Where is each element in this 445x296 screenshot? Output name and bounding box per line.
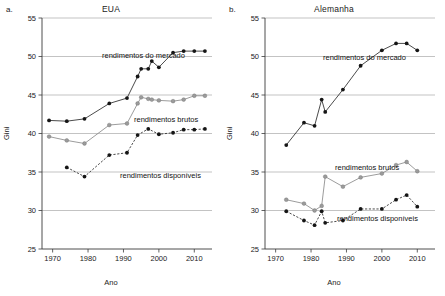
- panel-alemanha: b. Alemanha Gini 25303540455055197019801…: [223, 0, 445, 296]
- y-tick-label: 35: [251, 168, 259, 177]
- figure-gini-comparison: a. EUA Gini 2530354045505519701980199020…: [0, 0, 445, 296]
- data-point: [107, 123, 111, 127]
- data-point: [125, 96, 129, 100]
- data-point: [341, 185, 345, 189]
- data-point: [65, 119, 69, 123]
- data-point: [125, 122, 129, 126]
- y-tick-label: 45: [251, 91, 259, 100]
- x-tick-label: 1990: [338, 254, 355, 263]
- data-point: [171, 131, 175, 135]
- x-tick-label: 2010: [186, 254, 203, 263]
- x-axis-label-a: Ano: [0, 278, 222, 287]
- data-point: [157, 98, 161, 102]
- x-axis-label-b: Ano: [223, 278, 445, 287]
- data-point: [302, 121, 306, 125]
- y-tick-label: 55: [28, 14, 36, 23]
- data-point: [323, 175, 327, 179]
- y-tick-label: 30: [251, 206, 259, 215]
- data-point: [341, 88, 345, 92]
- data-point: [405, 193, 409, 197]
- data-point: [139, 67, 143, 71]
- data-point: [320, 209, 324, 213]
- x-tick-label: 2010: [409, 254, 426, 263]
- data-point: [136, 75, 140, 79]
- data-point: [359, 207, 363, 211]
- series-line: [49, 51, 205, 121]
- series-line: [67, 129, 205, 177]
- data-point: [415, 169, 419, 173]
- data-point: [323, 221, 327, 225]
- data-point: [47, 119, 51, 123]
- data-point: [192, 94, 196, 98]
- data-point: [394, 42, 398, 46]
- data-point: [394, 198, 398, 202]
- data-point: [380, 172, 384, 176]
- x-tick-label: 1980: [80, 254, 97, 263]
- panel-title-alemanha: Alemanha: [223, 4, 445, 14]
- data-point: [203, 49, 207, 53]
- data-point: [313, 209, 317, 213]
- x-tick-label: 1970: [267, 254, 284, 263]
- x-tick-label: 1980: [303, 254, 320, 263]
- data-point: [203, 94, 207, 98]
- annotation-disposable-income: rendimentos disponíveis: [120, 171, 201, 180]
- data-point: [171, 99, 175, 103]
- y-tick-label: 40: [28, 129, 36, 138]
- data-point: [320, 98, 324, 102]
- y-tick-label: 25: [251, 245, 259, 254]
- data-point: [284, 209, 288, 213]
- panel-eua: a. EUA Gini 2530354045505519701980199020…: [0, 0, 222, 296]
- data-point: [405, 42, 409, 46]
- data-point: [313, 124, 317, 128]
- panel-title-eua: EUA: [0, 4, 222, 14]
- chart-svg-eua: 2530354045505519701980199020002010rendim…: [42, 18, 214, 251]
- data-point: [139, 95, 143, 99]
- x-tick-label: 1990: [115, 254, 132, 263]
- data-point: [83, 175, 87, 179]
- data-point: [415, 48, 419, 52]
- y-axis-label-b: Gini: [225, 127, 234, 140]
- plot-area-alemanha: 2530354045505519701980199020002010rendim…: [265, 18, 435, 249]
- data-point: [182, 98, 186, 102]
- data-point: [83, 117, 87, 121]
- data-point: [146, 97, 150, 101]
- data-point: [380, 48, 384, 52]
- chart-svg-alemanha: 2530354045505519701980199020002010rendim…: [265, 18, 437, 251]
- data-point: [302, 219, 306, 223]
- plot-area-eua: 2530354045505519701980199020002010rendim…: [42, 18, 212, 249]
- data-point: [150, 98, 154, 102]
- data-point: [146, 127, 150, 131]
- data-point: [302, 202, 306, 206]
- data-point: [107, 153, 111, 157]
- data-point: [203, 127, 207, 131]
- data-point: [380, 207, 384, 211]
- data-point: [125, 151, 129, 155]
- data-point: [182, 128, 186, 132]
- y-tick-label: 35: [28, 168, 36, 177]
- data-point: [65, 165, 69, 169]
- y-tick-label: 45: [28, 91, 36, 100]
- annotation-gross-income: rendimentos brutos: [134, 115, 198, 124]
- annotation-disposable-income: rendimentos disponíveis: [337, 214, 418, 223]
- data-point: [157, 65, 161, 69]
- data-point: [136, 133, 140, 137]
- data-point: [192, 128, 196, 132]
- annotation-market-income: rendimentos do mercado: [102, 51, 185, 60]
- x-tick-label: 1970: [44, 254, 61, 263]
- data-point: [359, 64, 363, 68]
- data-point: [107, 102, 111, 106]
- y-tick-label: 50: [251, 52, 259, 61]
- data-point: [320, 204, 324, 208]
- data-point: [284, 198, 288, 202]
- data-point: [405, 160, 409, 164]
- y-tick-label: 30: [28, 206, 36, 215]
- data-point: [284, 143, 288, 147]
- data-point: [136, 102, 140, 106]
- data-point: [65, 139, 69, 143]
- data-point: [323, 110, 327, 114]
- y-tick-label: 40: [251, 129, 259, 138]
- x-tick-label: 2000: [151, 254, 168, 263]
- y-tick-label: 55: [251, 14, 259, 23]
- data-point: [359, 175, 363, 179]
- data-point: [192, 49, 196, 53]
